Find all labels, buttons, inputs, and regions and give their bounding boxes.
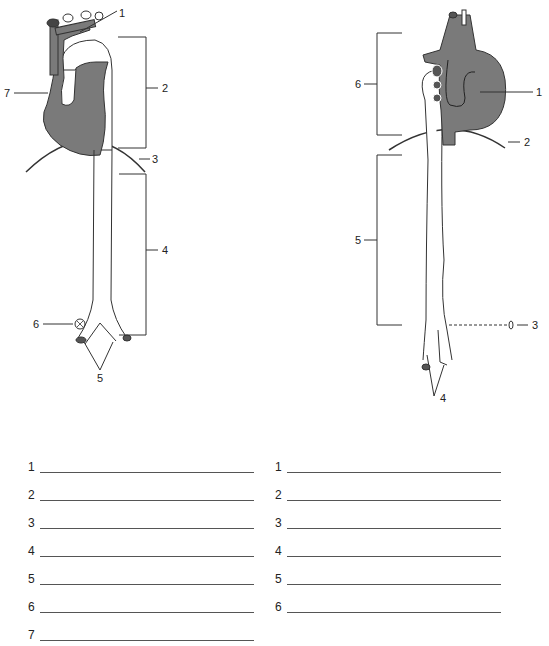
answer-blank-5[interactable] [40, 584, 254, 585]
bracket-5 [364, 155, 402, 325]
answer-row: 6 [275, 595, 505, 623]
answer-blank-4[interactable] [287, 556, 501, 557]
left-label-4: 4 [162, 245, 168, 256]
right-lateral-view [364, 10, 533, 396]
bracket-6 [364, 33, 402, 135]
answer-blank-5[interactable] [287, 584, 501, 585]
answer-number: 5 [275, 573, 285, 585]
answer-row: 1 [275, 455, 505, 483]
right-label-2: 2 [524, 137, 530, 148]
descending-aorta [78, 150, 127, 338]
answer-blank-1[interactable] [287, 472, 501, 473]
right-label-6: 6 [355, 79, 361, 90]
left-label-6: 6 [33, 319, 39, 330]
answer-blank-7[interactable] [40, 640, 254, 641]
answer-blank-3[interactable] [40, 528, 254, 529]
answer-number: 2 [28, 489, 38, 501]
answer-number: 3 [28, 517, 38, 529]
answer-blank-3[interactable] [287, 528, 501, 529]
answer-row: 2 [28, 483, 258, 511]
right-label-3: 3 [532, 320, 538, 331]
right-label-4: 4 [440, 393, 446, 404]
answer-row: 5 [275, 567, 505, 595]
answer-number: 6 [28, 601, 38, 613]
answer-number: 3 [275, 517, 285, 529]
answer-row: 1 [28, 455, 258, 483]
answer-number: 5 [28, 573, 38, 585]
answer-row: 4 [28, 539, 258, 567]
left-label-2: 2 [162, 83, 168, 94]
answer-row: 6 [28, 595, 258, 623]
right-label-5: 5 [355, 235, 361, 246]
answer-row: 7 [28, 623, 258, 646]
aorta-diagram [0, 0, 549, 420]
left-label-5: 5 [97, 373, 103, 384]
bracket-2 [118, 37, 158, 148]
answer-blank-6[interactable] [287, 612, 501, 613]
answer-number: 6 [275, 601, 285, 613]
answer-blank-4[interactable] [40, 556, 254, 557]
aortic-bifurcation [85, 323, 116, 344]
answer-number: 1 [275, 461, 285, 473]
answer-row: 5 [28, 567, 258, 595]
answer-number: 7 [28, 629, 38, 641]
answer-number: 4 [275, 545, 285, 557]
answer-blank-2[interactable] [40, 500, 254, 501]
left-label-1: 1 [119, 8, 125, 19]
answer-row: 3 [28, 511, 258, 539]
answer-row: 2 [275, 483, 505, 511]
answer-row: 3 [275, 511, 505, 539]
answer-number: 1 [28, 461, 38, 473]
right-label-1: 1 [536, 87, 542, 98]
left-anterior-view [14, 11, 158, 370]
answer-row: 4 [275, 539, 505, 567]
answer-number: 4 [28, 545, 38, 557]
answer-blank-1[interactable] [40, 472, 254, 473]
answer-number: 2 [275, 489, 285, 501]
bracket-4 [119, 174, 158, 335]
left-label-3: 3 [152, 154, 158, 165]
answer-blank-2[interactable] [287, 500, 501, 501]
answer-list-left: 1 2 3 4 5 6 7 [28, 455, 258, 646]
answer-blank-6[interactable] [40, 612, 254, 613]
left-label-7: 7 [4, 88, 10, 99]
marker-3-ellipse [509, 321, 513, 329]
answer-list-right: 1 2 3 4 5 6 [275, 455, 505, 623]
